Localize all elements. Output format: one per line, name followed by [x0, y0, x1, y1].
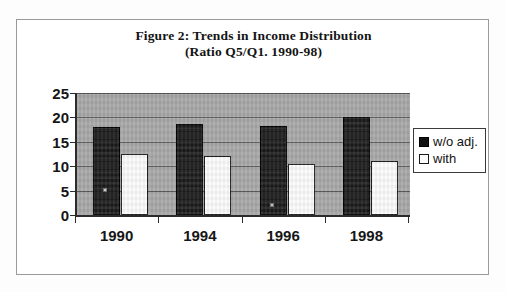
y-axis-tick-label: 10: [23, 158, 69, 175]
y-axis-tick-label: 0: [23, 207, 69, 224]
bar: [121, 154, 148, 215]
x-axis-tick-mark: [325, 217, 326, 223]
y-axis-tick-label: 20: [23, 109, 69, 126]
bar: [93, 127, 120, 215]
bar: [343, 117, 370, 215]
filled-square-icon: [419, 137, 429, 147]
legend-item-label: with: [433, 152, 456, 165]
chart-legend: w/o adj.with: [413, 128, 486, 173]
x-axis-tick-mark: [158, 217, 159, 223]
y-axis-tick-label: 25: [23, 85, 69, 102]
bar: [260, 126, 287, 215]
legend-item: w/o adj.: [419, 133, 478, 150]
bar: [176, 124, 203, 215]
plot-area: [75, 93, 410, 217]
scan-artifact: [270, 203, 274, 207]
figure-frame: Figure 2: Trends in Income Distribution …: [16, 19, 489, 275]
scan-artifact: [103, 188, 107, 192]
chart-subtitle: (Ratio Q5/Q1. 1990-98): [17, 44, 490, 60]
bar: [204, 156, 231, 215]
x-axis-category-label: 1990: [100, 227, 133, 244]
y-axis-tick-label: 15: [23, 133, 69, 150]
x-axis-category-label: 1996: [266, 227, 299, 244]
x-axis-category-label: 1994: [183, 227, 216, 244]
x-axis-tick-mark: [408, 217, 409, 223]
legend-item-label: w/o adj.: [433, 135, 478, 148]
x-axis-tick-mark: [242, 217, 243, 223]
title-block: Figure 2: Trends in Income Distribution …: [17, 28, 490, 60]
x-axis-tick-mark: [75, 217, 76, 223]
bar: [371, 161, 398, 215]
figure-page: Figure 2: Trends in Income Distribution …: [0, 0, 506, 292]
x-axis-category-label: 1998: [350, 227, 383, 244]
bar: [288, 164, 315, 215]
hollow-square-icon: [419, 154, 429, 164]
page-title: Figure 2: Trends in Income Distribution: [17, 28, 490, 44]
y-axis-tick-label: 5: [23, 182, 69, 199]
legend-item: with: [419, 150, 478, 167]
plot-top-rule: [77, 93, 410, 94]
